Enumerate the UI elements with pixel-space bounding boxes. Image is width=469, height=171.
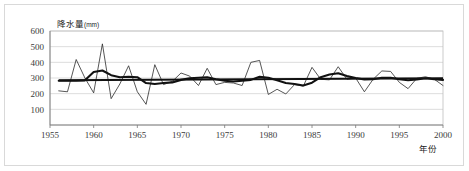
y-axis-title: 降水量	[57, 19, 84, 29]
chart-canvas: 600500400300200100 195519601965197019751…	[0, 0, 469, 171]
x-axis-tick-label: 1980	[259, 130, 278, 140]
x-axis-tick-label: 1985	[303, 130, 322, 140]
y-axis-tick-label: 600	[31, 26, 45, 36]
y-axis-title-unit: (mm)	[84, 21, 99, 29]
x-axis-tick-label: 1970	[172, 130, 191, 140]
x-axis-tick-labels: 1955196019651970197519801985199019952000	[41, 130, 453, 140]
x-axis-tick-label: 2000	[434, 130, 453, 140]
y-axis-tick-label: 100	[31, 105, 45, 115]
x-axis-tick-label: 1975	[216, 130, 235, 140]
x-axis-tick-label: 1955	[41, 130, 60, 140]
x-axis-tick-label: 1965	[128, 130, 147, 140]
y-axis-tick-label: 300	[31, 73, 45, 83]
x-axis-tick-label: 1960	[85, 130, 104, 140]
x-axis-tick-label: 1995	[390, 130, 409, 140]
precipitation-chart-figure: 600500400300200100 195519601965197019751…	[0, 0, 469, 171]
y-axis-tick-label: 400	[31, 58, 45, 68]
y-axis-tick-label: 200	[31, 89, 45, 99]
x-axis-title: 年份	[419, 144, 437, 154]
y-axis-tick-labels: 600500400300200100	[31, 26, 45, 114]
y-axis-tick-label: 500	[31, 42, 45, 52]
x-axis-tick-label: 1990	[347, 130, 366, 140]
